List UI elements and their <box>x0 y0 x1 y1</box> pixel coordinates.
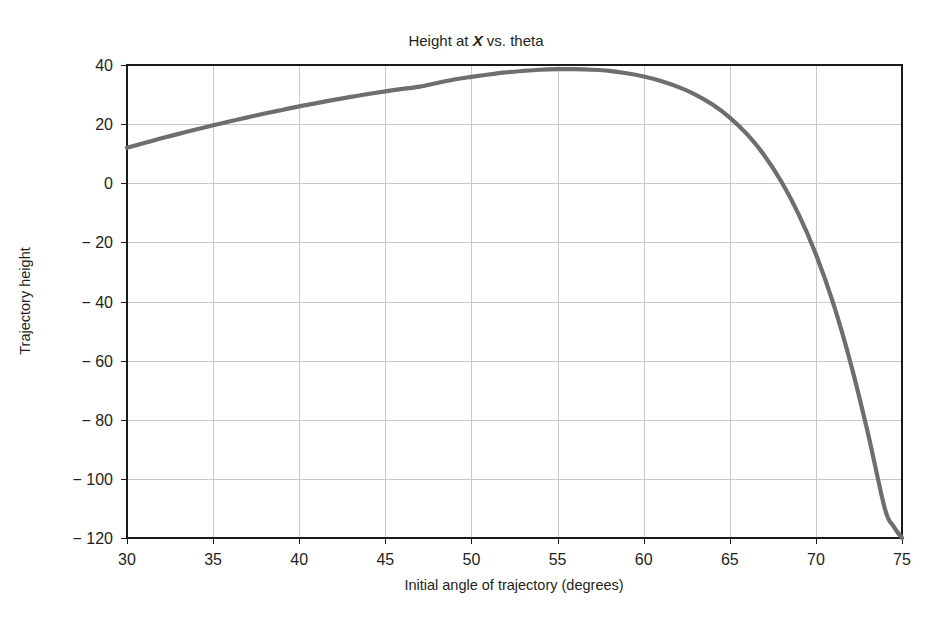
y-tick-label: − 100 <box>73 471 114 488</box>
y-tick-label: 40 <box>95 57 113 74</box>
data-series-trajectory-height <box>127 69 902 538</box>
tick-marks <box>121 66 903 545</box>
chart-title: Height at X vs. theta <box>408 32 544 49</box>
x-tick-label: 70 <box>807 551 825 568</box>
gridlines <box>127 65 902 538</box>
x-tick-label: 60 <box>635 551 653 568</box>
y-axis-label: Trajectory height <box>17 247 33 354</box>
x-tick-label: 45 <box>376 551 394 568</box>
y-tick-label: − 40 <box>81 294 113 311</box>
y-tick-label: − 60 <box>81 353 113 370</box>
x-tick-label: 30 <box>118 551 136 568</box>
x-tick-label: 75 <box>893 551 911 568</box>
x-tick-label: 65 <box>721 551 739 568</box>
y-tick-label: − 20 <box>81 234 113 251</box>
x-axis-label: Initial angle of trajectory (degrees) <box>404 577 623 593</box>
x-tick-label: 35 <box>204 551 222 568</box>
y-tick-label: − 80 <box>81 412 113 429</box>
chart-title-suffix: vs. theta <box>483 32 545 49</box>
x-tick-label: 40 <box>290 551 308 568</box>
chart-svg: Height at X vs. theta 303540455055606570… <box>0 0 952 636</box>
y-tick-label: 0 <box>104 175 113 192</box>
x-tick-labels: 30354045505560657075 <box>118 551 911 568</box>
y-tick-label: 20 <box>95 116 113 133</box>
x-tick-label: 55 <box>549 551 567 568</box>
y-tick-label: − 120 <box>73 530 114 547</box>
chart-title-prefix: Height at <box>408 32 472 49</box>
figure-canvas: Height at X vs. theta 303540455055606570… <box>0 0 952 636</box>
y-tick-labels: 40200− 20− 40− 60− 80− 100− 120 <box>73 57 114 547</box>
plot-frame <box>127 65 902 538</box>
x-tick-label: 50 <box>463 551 481 568</box>
